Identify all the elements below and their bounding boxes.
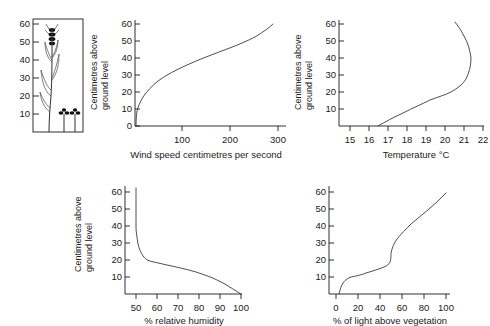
temp-xtick-17: 17 — [383, 134, 394, 145]
light-xtick-0: 0 — [333, 302, 338, 313]
plant-ytick-60: 60 — [19, 18, 30, 29]
wind-axes — [135, 20, 286, 131]
light-ytick-10: 10 — [315, 271, 326, 282]
plant-panel-frame — [33, 19, 83, 132]
humidity-ytick-50: 50 — [111, 203, 122, 214]
temp-y-axis-title: Centimetres above ground level — [293, 34, 314, 110]
temp-ytick-40: 40 — [325, 52, 336, 63]
temperature-panel: Centimetres above ground level 60 50 40 … — [288, 0, 490, 165]
wind-ytick-30: 30 — [121, 69, 132, 80]
temp-xtick-15: 15 — [345, 134, 356, 145]
plant-ytick-20: 20 — [19, 90, 30, 101]
light-ytick-60: 60 — [315, 186, 326, 197]
humidity-ytick-30: 30 — [111, 237, 122, 248]
temp-x-axis-label: Temperature °C — [383, 149, 450, 160]
humidity-xtick-60: 60 — [152, 302, 163, 313]
temp-ytick-60: 60 — [325, 18, 336, 29]
humidity-y-ticklabels: 60 50 40 30 20 10 — [111, 186, 122, 282]
wind-y-ticklabels: 60 50 40 30 20 10 0 — [121, 18, 132, 131]
humidity-x-ticklabels: 50 60 70 80 90 100 — [131, 302, 249, 313]
humidity-ytick-10: 10 — [111, 271, 122, 282]
humidity-x-axis-label: % relative humidity — [144, 315, 224, 326]
light-curve — [339, 193, 446, 294]
temp-ytick-50: 50 — [325, 35, 336, 46]
light-xtick-100: 100 — [438, 302, 454, 313]
wind-ylabel-line1: Centimetres above — [89, 34, 99, 110]
light-panel: 60 50 40 30 20 10 0 20 40 60 80 100 % of… — [290, 172, 490, 326]
clover-plant — [59, 108, 70, 132]
light-ytick-40: 40 — [315, 220, 326, 231]
wind-ytick-40: 40 — [121, 52, 132, 63]
temp-xtick-20: 20 — [440, 134, 451, 145]
plant-ytick-50: 50 — [19, 36, 30, 47]
wind-x-axis-label: Wind speed centimetres per second — [130, 149, 282, 160]
light-x-axis-label: % of light above vegetation — [333, 315, 447, 326]
wind-ytick-10: 10 — [121, 103, 132, 114]
light-x-ticklabels: 0 20 40 60 80 100 — [333, 302, 454, 313]
humidity-y-axis-title: Centimetres above ground level — [73, 196, 94, 272]
grass-seed-head — [45, 24, 59, 46]
wind-ylabel-line2: ground level — [100, 61, 110, 110]
temp-ylabel-line1: Centimetres above — [293, 34, 303, 110]
humidity-xtick-70: 70 — [173, 302, 184, 313]
wind-speed-curve — [136, 24, 273, 126]
wind-xtick-200: 200 — [222, 134, 238, 145]
temp-ytick-30: 30 — [325, 69, 336, 80]
humidity-xtick-90: 90 — [215, 302, 226, 313]
wind-ytick-20: 20 — [121, 86, 132, 97]
temp-xtick-22: 22 — [478, 134, 489, 145]
wind-ytick-60: 60 — [121, 18, 132, 29]
plant-y-axis-ticks — [33, 24, 39, 114]
temp-y-ticklabels: 60 50 40 30 20 10 — [325, 18, 336, 114]
humidity-ytick-40: 40 — [111, 220, 122, 231]
plant-ytick-30: 30 — [19, 72, 30, 83]
wind-xtick-300: 300 — [270, 134, 286, 145]
wind-speed-panel: Centimetres above ground level 60 50 40 … — [86, 0, 296, 165]
wind-ytick-0: 0 — [127, 120, 132, 131]
plant-ytick-40: 40 — [19, 54, 30, 65]
temp-xtick-21: 21 — [459, 134, 470, 145]
temp-xtick-16: 16 — [364, 134, 375, 145]
humidity-ytick-20: 20 — [111, 254, 122, 265]
light-ytick-20: 20 — [315, 254, 326, 265]
grass-ear-plant — [40, 24, 59, 132]
humidity-ylabel-line1: Centimetres above — [73, 196, 83, 272]
temp-x-ticklabels: 15 16 17 18 19 20 21 22 — [345, 134, 489, 145]
light-y-ticklabels: 60 50 40 30 20 10 — [315, 186, 326, 282]
plant-y-axis-ticklabels: 60 50 40 30 20 10 — [19, 18, 30, 119]
temp-xtick-19: 19 — [421, 134, 432, 145]
light-xtick-40: 40 — [375, 302, 386, 313]
temp-xtick-18: 18 — [402, 134, 413, 145]
temp-ytick-20: 20 — [325, 86, 336, 97]
plant-diagram-panel: 60 50 40 30 20 10 — [0, 0, 95, 160]
light-xtick-60: 60 — [397, 302, 408, 313]
humidity-ytick-60: 60 — [111, 186, 122, 197]
humidity-xtick-50: 50 — [131, 302, 142, 313]
temperature-curve — [378, 22, 471, 126]
humidity-xtick-100: 100 — [233, 302, 249, 313]
wind-ytick-50: 50 — [121, 35, 132, 46]
plant-ytick-10: 10 — [19, 108, 30, 119]
temp-ylabel-line2: ground level — [304, 61, 314, 110]
temp-axes — [339, 20, 484, 131]
humidity-curve — [136, 188, 241, 294]
humidity-xtick-80: 80 — [194, 302, 205, 313]
humidity-panel: Centimetres above ground level 60 50 40 … — [60, 172, 270, 326]
humidity-ylabel-line2: ground level — [84, 223, 94, 272]
light-axes — [329, 186, 450, 299]
wind-x-ticklabels: 100 200 300 — [174, 134, 286, 145]
light-ytick-30: 30 — [315, 237, 326, 248]
temp-ytick-10: 10 — [325, 103, 336, 114]
clover-plant — [70, 108, 81, 132]
humidity-axes — [125, 186, 242, 299]
light-ytick-50: 50 — [315, 203, 326, 214]
wind-y-axis-title: Centimetres above ground level — [89, 34, 110, 110]
light-xtick-80: 80 — [419, 302, 430, 313]
wind-xtick-100: 100 — [174, 134, 190, 145]
light-xtick-20: 20 — [353, 302, 364, 313]
